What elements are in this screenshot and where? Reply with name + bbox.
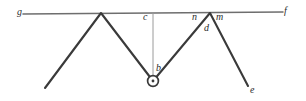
vertex-label-c: c (143, 12, 147, 22)
figure-canvas: g f c n m d b e (0, 0, 306, 101)
vertex-label-n: n (192, 12, 197, 22)
diagram-svg (0, 0, 306, 101)
vertex-label-e: e (250, 85, 254, 95)
vertex-label-b: b (156, 63, 161, 73)
vertex-label-f: f (284, 6, 287, 16)
vertex-label-d: d (204, 23, 209, 33)
zigzag-path (45, 13, 248, 88)
vertex-label-g: g (17, 7, 22, 17)
vertex-label-m: m (216, 12, 223, 22)
bob-center-dot (152, 80, 155, 83)
